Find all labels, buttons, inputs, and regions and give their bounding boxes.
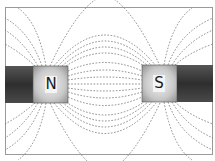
north-pole-label: N — [43, 75, 59, 93]
south-pole-label: S — [151, 74, 167, 92]
magnetic-field-diagram — [0, 0, 215, 161]
south-magnet-bar — [177, 65, 213, 102]
north-magnet-bar — [5, 66, 34, 103]
